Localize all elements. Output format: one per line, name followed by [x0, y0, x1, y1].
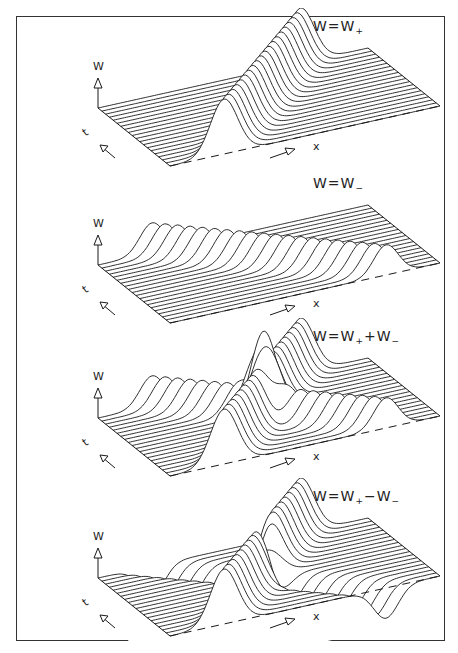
waterfall-panel-minus: W=W− W t x: [0, 165, 458, 325]
panel-title: W=W+: [313, 18, 364, 36]
x-axis-label: x: [313, 297, 320, 310]
panel-title: W=W+−W−: [313, 488, 400, 506]
x-axis-label: x: [313, 450, 320, 463]
x-axis-label: x: [313, 610, 320, 623]
waterfall-panel-diff: W=W+−W− W t x: [0, 478, 458, 638]
w-axis-label: W: [93, 217, 104, 230]
waterfall-panel-sum: W=W++W− W t x: [0, 318, 458, 478]
panel-title: W=W−: [313, 175, 364, 193]
waterfall-panel-plus: W=W+ W t x: [0, 8, 458, 168]
w-axis-label: W: [93, 60, 104, 73]
w-axis-label: W: [93, 530, 104, 543]
panel-title: W=W++W−: [313, 328, 400, 346]
x-axis-label: x: [313, 140, 320, 153]
w-axis-label: W: [93, 370, 104, 383]
waterfall-plot-svg: [0, 8, 458, 178]
waterfall-plot-svg: [0, 165, 458, 335]
